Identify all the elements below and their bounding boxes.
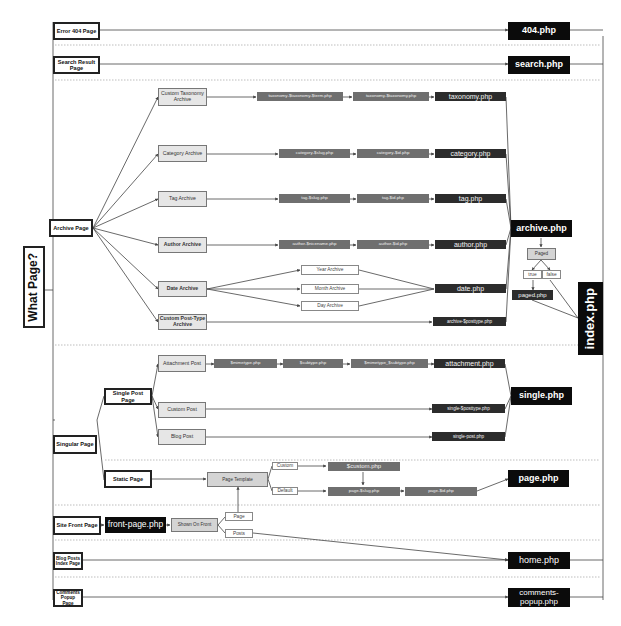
- single-attachment-post[interactable]: Attachment Post: [158, 355, 206, 372]
- archive-custom-post-type[interactable]: Custom Post-Type Archive: [158, 314, 207, 330]
- template-archive[interactable]: archive.php: [511, 220, 572, 237]
- archive-category[interactable]: Category Archive: [158, 145, 207, 162]
- template-single-post[interactable]: single-post.php: [432, 432, 505, 441]
- pagetype-archive[interactable]: Archive Page: [49, 219, 93, 237]
- condition-custom[interactable]: Custom: [272, 462, 298, 470]
- archive-author[interactable]: Author Archive: [158, 237, 207, 253]
- date-year-archive[interactable]: Year Archive: [301, 265, 359, 275]
- template-front-page[interactable]: front-page.php: [105, 517, 166, 533]
- template-taxonomy-tax[interactable]: taxonomy-$taxonomy.php: [353, 92, 429, 101]
- template-hierarchy-diagram: What Page? Error 404 Page Search Result …: [0, 0, 621, 626]
- template-mimetype-subtype[interactable]: $mimetype_$subtype.php: [351, 359, 428, 368]
- template-index[interactable]: index.php: [578, 282, 603, 355]
- template-mimetype[interactable]: $mimetype.php: [214, 359, 277, 368]
- template-author-id[interactable]: author-$id.php: [357, 240, 429, 249]
- archive-custom-taxonomy[interactable]: Custom Taxonomy Archive: [158, 88, 207, 106]
- what-page-root: What Page?: [23, 246, 45, 328]
- pagetype-blog-posts-index[interactable]: Blog Posts Index Page: [53, 552, 83, 570]
- condition-paged-true[interactable]: true: [523, 270, 542, 279]
- archive-date[interactable]: Date Archive: [158, 281, 207, 297]
- template-category-slug[interactable]: category-$slug.php: [279, 149, 350, 158]
- template-taxonomy[interactable]: taxonomy.php: [435, 92, 506, 101]
- pagetype-search[interactable]: Search Result Page: [53, 56, 100, 74]
- template-attachment[interactable]: attachment.php: [434, 359, 505, 368]
- condition-paged-false[interactable]: false: [542, 270, 561, 279]
- template-category-id[interactable]: category-$id.php: [357, 149, 429, 158]
- index-label: index.php: [583, 288, 597, 349]
- condition-paged[interactable]: Paged: [527, 248, 556, 260]
- condition-page-template[interactable]: Page Template: [207, 472, 268, 487]
- template-home[interactable]: home.php: [508, 552, 570, 569]
- date-month-archive[interactable]: Month Archive: [301, 284, 359, 294]
- template-tag-slug[interactable]: tag-$slug.php: [279, 194, 350, 203]
- template-page[interactable]: page.php: [508, 470, 569, 487]
- template-custom[interactable]: $custom.php: [328, 462, 400, 471]
- condition-default[interactable]: Default: [272, 487, 298, 495]
- condition-posts[interactable]: Posts: [225, 529, 253, 538]
- template-category[interactable]: category.php: [435, 149, 506, 158]
- template-paged[interactable]: paged.php: [512, 290, 553, 300]
- pagetype-static-page[interactable]: Static Page: [104, 470, 152, 488]
- template-taxonomy-term[interactable]: taxonomy-$taxonomy-$term.php: [257, 92, 343, 101]
- template-single-posttype[interactable]: single-$posttype.php: [432, 404, 505, 413]
- template-page-id[interactable]: page-$id.php: [405, 487, 477, 496]
- template-subtype[interactable]: $subtype.php: [283, 359, 343, 368]
- template-archive-posttype[interactable]: archive-$posttype.php: [433, 317, 506, 326]
- archive-tag[interactable]: Tag Archive: [158, 191, 207, 207]
- date-day-archive[interactable]: Day Archive: [301, 301, 359, 311]
- template-404[interactable]: 404.php: [508, 22, 570, 40]
- pagetype-singular[interactable]: Singular Page: [53, 435, 97, 454]
- template-single[interactable]: single.php: [511, 387, 572, 405]
- condition-shown-on-front[interactable]: Shown On Front: [171, 518, 218, 532]
- template-date[interactable]: date.php: [435, 284, 506, 293]
- pagetype-error404[interactable]: Error 404 Page: [53, 22, 100, 40]
- pagetype-site-front[interactable]: Site Front Page: [53, 516, 101, 535]
- pagetype-comments-popup[interactable]: Comments Popup Page: [53, 589, 83, 607]
- template-page-slug[interactable]: page-$slug.php: [328, 487, 400, 496]
- pagetype-single-post[interactable]: Single Post Page: [104, 388, 152, 405]
- template-comments-popup[interactable]: comments-popup.php: [508, 588, 570, 607]
- template-author[interactable]: author.php: [435, 240, 506, 249]
- template-tag[interactable]: tag.php: [435, 194, 506, 203]
- template-author-nicename[interactable]: author-$nicename.php: [279, 240, 350, 249]
- single-blog-post[interactable]: Blog Post: [158, 429, 206, 445]
- template-tag-id[interactable]: tag-$id.php: [357, 194, 429, 203]
- what-page-label: What Page?: [27, 253, 40, 322]
- condition-page[interactable]: Page: [225, 512, 253, 521]
- template-search[interactable]: search.php: [508, 56, 570, 74]
- single-custom-post[interactable]: Custom Post: [158, 402, 206, 418]
